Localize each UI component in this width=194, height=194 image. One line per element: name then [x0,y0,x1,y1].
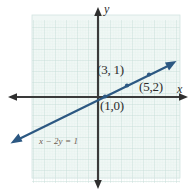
y-axis-label: y [104,3,109,15]
graph-figure: (3, 1) (1,0) (5,2) y x x − 2y = 1 [0,0,194,194]
point-label-1-0: (1,0) [100,99,124,112]
point-label-5-2: (5,2) [139,80,163,93]
x-axis-label: x [177,83,182,95]
equation-label: x − 2y = 1 [39,137,78,146]
point-marker-3-1 [125,83,129,87]
point-label-3-1: (3, 1) [97,63,124,76]
coordinate-plane [0,0,194,194]
point-marker-5-2 [147,72,151,76]
